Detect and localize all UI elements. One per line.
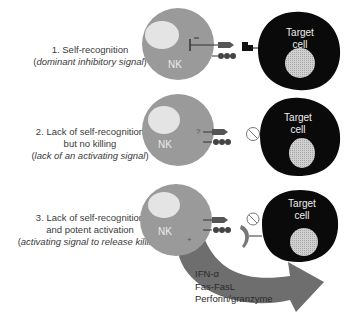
target-nucleus-1 <box>285 48 315 78</box>
product-ifn: IFN-α <box>195 268 273 281</box>
svg-text:cell: cell <box>294 210 309 221</box>
nk-cell-2 <box>142 94 214 166</box>
panel-1-diagram: NK Target cell <box>142 8 340 90</box>
svg-text:NK: NK <box>158 226 172 237</box>
svg-text:Target: Target <box>284 112 312 123</box>
no-signal-icon-2 <box>247 128 260 141</box>
activating-receptor-1 <box>218 42 234 48</box>
activating-ligand <box>240 225 249 248</box>
mhc-ligand-1 <box>242 42 253 51</box>
svg-text:Target: Target <box>286 27 314 38</box>
nk-diagram: NK Target cell NK ? Target <box>0 0 350 320</box>
svg-text:cell: cell <box>292 39 307 50</box>
question-mark: ? <box>196 127 201 136</box>
svg-text:Target: Target <box>288 198 316 209</box>
no-signal-icon-3 <box>247 213 259 225</box>
nk-nucleus-2 <box>148 106 180 134</box>
svg-text:cell: cell <box>290 124 305 135</box>
product-perforin: Perforin/granzyme <box>195 293 273 306</box>
svg-text:NK: NK <box>158 139 172 150</box>
plus-sign: + <box>187 235 192 244</box>
nk-nucleus-1 <box>145 21 179 49</box>
target-nucleus-3 <box>290 228 318 256</box>
target-nucleus-2 <box>289 138 315 168</box>
nk-nucleus-3 <box>148 192 180 218</box>
panel-2-diagram: NK ? Target cell <box>142 94 340 176</box>
nk-cell-3 <box>140 184 212 256</box>
panel-3-diagram: NK + Target cell <box>140 184 338 262</box>
effector-products: IFN-α Fas-FasL Perforin/granzyme <box>195 268 273 306</box>
product-fasl: Fas-FasL <box>195 281 273 294</box>
nk-label-1: NK <box>168 59 182 70</box>
